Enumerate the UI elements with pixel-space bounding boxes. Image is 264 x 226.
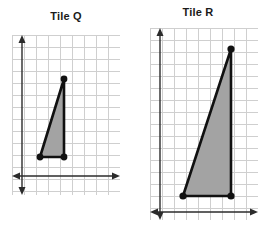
tile-q-title: Tile Q (0, 10, 132, 22)
tile-q-panel: Tile Q (0, 0, 132, 226)
tile-q-grid (12, 35, 120, 195)
tile-r-vertex-bottom-left (179, 192, 186, 199)
tile-r-title: Tile R (132, 6, 264, 18)
tile-q-y-axis (19, 35, 26, 195)
tile-r-vertex-apex (227, 45, 234, 52)
tile-r-panel: Tile R (132, 0, 264, 226)
tile-r-vertex-bottom-right (227, 192, 234, 199)
tile-r-y-axis (157, 28, 164, 220)
tile-q-vertex-apex (61, 76, 68, 83)
tile-q-x-axis (12, 173, 120, 180)
tile-r-grid (150, 28, 258, 220)
tile-q-triangle (37, 76, 68, 161)
tile-r-triangle (179, 45, 234, 199)
tile-r-x-axis (150, 209, 258, 216)
tile-q-vertex-bottom-left (37, 154, 44, 161)
tile-q-vertex-bottom-right (61, 154, 68, 161)
